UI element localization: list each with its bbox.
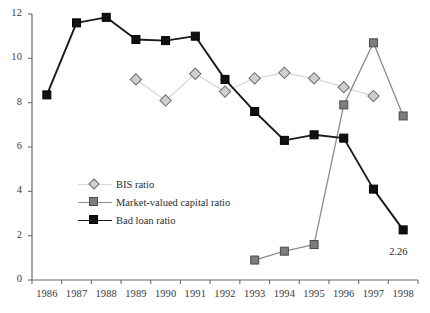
- square-data-point: [43, 91, 51, 99]
- diamond-data-point: [279, 67, 290, 78]
- square-data-point: [102, 13, 110, 21]
- y-axis-tick-label: 0: [4, 273, 22, 284]
- diamond-data-point: [338, 81, 349, 92]
- data-point-annotation: 2.26: [389, 246, 407, 257]
- y-axis-tick-label: 8: [4, 96, 22, 107]
- chart-plot-area: [0, 0, 430, 313]
- square-data-point: [310, 131, 318, 139]
- legend-item-market-valued-capital-ratio: Market-valued capital ratio: [78, 194, 230, 210]
- y-axis-tick-label: 10: [4, 51, 22, 62]
- y-axis-tick-label: 2: [4, 229, 22, 240]
- legend-label: BIS ratio: [112, 179, 154, 190]
- y-axis-tick-label: 12: [4, 7, 22, 18]
- y-axis-tick-label: 4: [4, 184, 22, 195]
- square-data-point: [399, 226, 407, 234]
- square-marker-icon: [89, 197, 98, 206]
- square-data-point: [310, 241, 318, 249]
- legend-key-bad-loan-ratio: [78, 213, 112, 227]
- legend-key-bis-ratio: [78, 177, 112, 191]
- legend-key-market-valued-capital-ratio: [78, 195, 112, 209]
- x-axis-tick-label: 1998: [386, 288, 420, 299]
- square-data-point: [73, 19, 81, 27]
- chart-container: 024681012 198619871988198919901991199219…: [0, 0, 430, 313]
- square-data-point: [251, 108, 259, 116]
- square-data-point: [132, 35, 140, 43]
- diamond-data-point: [368, 90, 379, 101]
- square-data-point: [251, 256, 259, 264]
- legend-item-bis-ratio: BIS ratio: [78, 176, 230, 192]
- square-data-point: [399, 112, 407, 120]
- y-axis-tick-label: 6: [4, 140, 22, 151]
- square-data-point: [340, 134, 348, 142]
- diamond-data-point: [308, 73, 319, 84]
- legend-label: Market-valued capital ratio: [112, 197, 230, 208]
- square-data-point: [280, 247, 288, 255]
- square-marker-icon: [89, 215, 98, 224]
- square-data-point: [221, 75, 229, 83]
- diamond-data-point: [130, 74, 141, 85]
- diamond-marker-icon: [88, 178, 99, 189]
- chart-legend: BIS ratio Market-valued capital ratio Ba…: [78, 176, 230, 230]
- legend-item-bad-loan-ratio: Bad loan ratio: [78, 212, 230, 228]
- square-data-point: [162, 37, 170, 45]
- diamond-data-point: [249, 73, 260, 84]
- series-line: [255, 43, 403, 260]
- square-data-point: [280, 136, 288, 144]
- diamond-data-point: [219, 86, 230, 97]
- axis-lines: [32, 14, 418, 280]
- square-data-point: [340, 101, 348, 109]
- square-data-point: [369, 39, 377, 47]
- square-data-point: [191, 32, 199, 40]
- square-data-point: [369, 185, 377, 193]
- legend-label: Bad loan ratio: [112, 215, 175, 226]
